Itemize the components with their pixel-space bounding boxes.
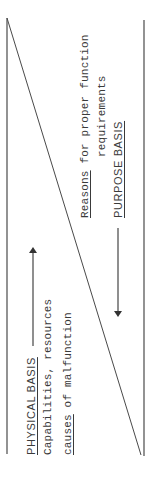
physical-basis-heading: PHYSICAL BASIS: [25, 357, 37, 455]
physical-basis-line1: Capabilities, resources: [42, 299, 54, 455]
proper-function-text: for proper function: [79, 34, 91, 170]
malfunction-text: of malfunction: [62, 312, 74, 414]
purpose-basis-line1: Reasons for proper function: [79, 34, 91, 218]
purpose-basis-heading: PURPOSE BASIS: [112, 121, 124, 218]
diagram-canvas: PHYSICAL BASIS Capabilities, resources c…: [0, 0, 155, 483]
physical-basis-line2: causes of malfunction: [62, 312, 74, 455]
causes-word: causes: [62, 414, 74, 455]
purpose-basis-line2: requirements: [96, 75, 108, 157]
diagram-lines: [0, 0, 155, 483]
reasons-word: Reasons: [79, 170, 91, 218]
